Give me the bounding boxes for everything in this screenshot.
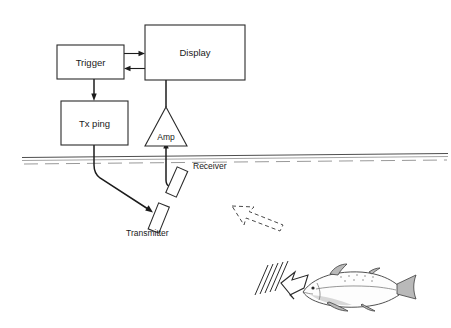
receiver-transducer-group[interactable]: Receiver [166,161,227,197]
echo-arrow [232,206,283,231]
block-amp[interactable]: Amp [145,107,187,146]
fish-group [303,264,416,311]
arrowhead-txping-to-transmitter [145,205,153,212]
echosounder-diagram: Display Trigger Tx ping Amp Receiver Tra… [0,0,451,328]
amp-label: Amp [157,132,175,142]
water-surface-group [22,154,448,165]
tx-ping-label: Tx ping [79,118,110,129]
wire-txping-to-transmitter [94,145,148,209]
block-trigger[interactable]: Trigger [57,45,124,79]
receiver-transducer[interactable] [166,167,188,197]
trigger-label: Trigger [76,57,106,68]
echo-arrow-group [232,206,283,231]
diagram-canvas: Display Trigger Tx ping Amp Receiver Tra… [0,0,451,328]
receiver-label: Receiver [193,161,227,171]
arrowhead-display-to-trigger [124,66,131,71]
water-surface-dashed-line [24,160,447,164]
transmitter-label: Transmitter [126,228,169,238]
ping-arrow [281,272,308,299]
arrowhead-trigger-to-txping [91,94,96,102]
display-label: Display [179,47,210,58]
fish-body [303,272,399,307]
block-tx-ping[interactable]: Tx ping [61,101,128,145]
arrowhead-trigger-to-display [139,51,146,56]
fish-eye [311,286,314,289]
wavefront-group [255,261,288,295]
block-display[interactable]: Display [145,25,245,80]
ping-arrow-group [281,272,308,299]
fish-tail-fin [397,275,416,299]
fish-adipose-fin [369,268,380,274]
